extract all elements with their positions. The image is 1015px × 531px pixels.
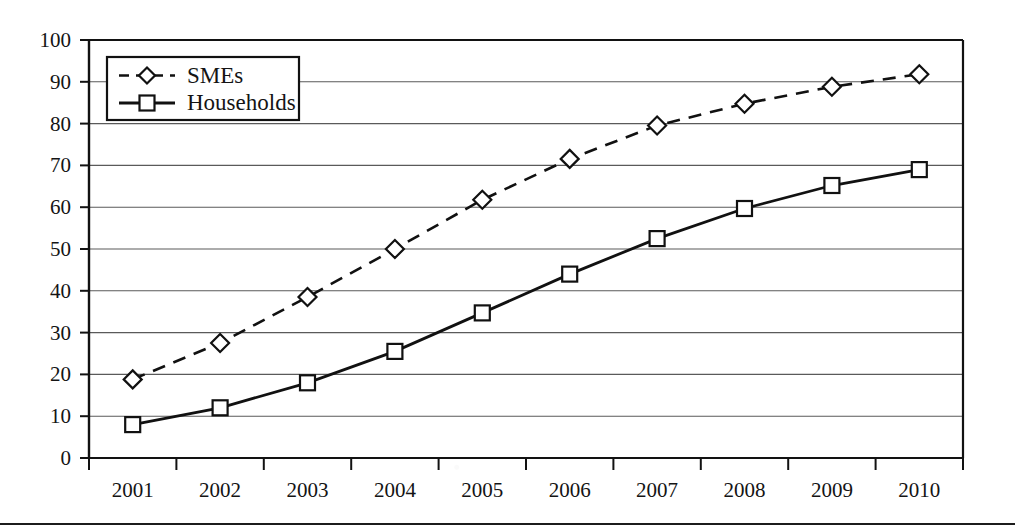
legend-label-smes: SMEs [187,64,243,87]
y-axis-ticks [80,40,89,458]
x-tick-label-2009: 2009 [787,480,877,501]
y-tick-label-30: 30 [11,323,71,344]
x-tick-label-2002: 2002 [175,480,265,501]
line-chart-plot [0,0,1015,531]
x-tick-label-2001: 2001 [88,480,178,501]
x-tick-label-2008: 2008 [700,480,790,501]
x-tick-label-2003: 2003 [263,480,353,501]
x-axis-ticks [89,458,963,470]
x-tick-label-2010: 2010 [874,480,964,501]
y-tick-label-100: 100 [11,30,71,51]
y-tick-label-20: 20 [11,364,71,385]
page-bottom-rule [0,523,1015,525]
x-tick-label-2006: 2006 [525,480,615,501]
x-tick-label-2004: 2004 [350,480,440,501]
y-tick-label-90: 90 [11,72,71,93]
x-tick-label-2005: 2005 [437,480,527,501]
y-tick-label-70: 70 [11,155,71,176]
y-tick-label-10: 10 [11,406,71,427]
y-tick-label-50: 50 [11,239,71,260]
x-tick-label-2007: 2007 [612,480,702,501]
y-tick-label-0: 0 [11,448,71,469]
chart-figure: 100 90 80 70 60 50 40 30 20 10 0 2001 20… [0,0,1015,531]
y-tick-label-40: 40 [11,281,71,302]
y-tick-label-80: 80 [11,114,71,135]
y-tick-label-60: 60 [11,197,71,218]
legend-label-households: Households [187,91,296,114]
